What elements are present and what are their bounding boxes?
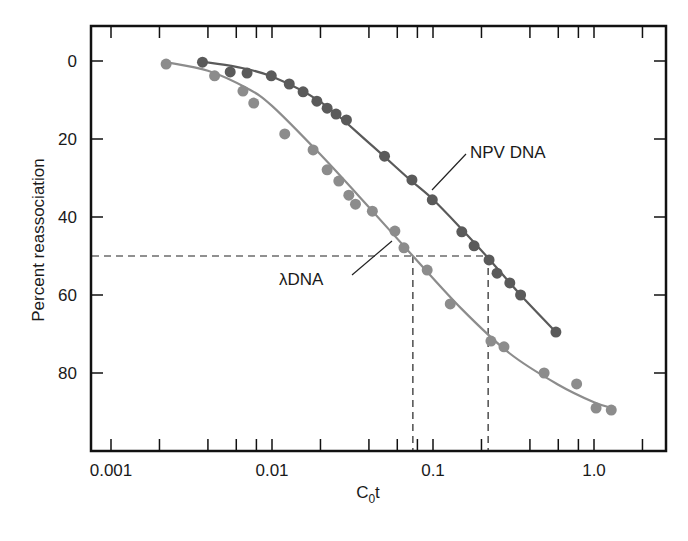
- lambda-dna-point: [398, 242, 409, 253]
- lambda-dna-point: [606, 405, 617, 416]
- npv-dna-point: [492, 268, 503, 279]
- npv-dna-point: [225, 66, 236, 77]
- npv-dna-point: [298, 86, 309, 97]
- lambda-dna-point: [161, 59, 172, 70]
- lambda-dna-point: [308, 144, 319, 155]
- x-axis-title: C0t: [356, 483, 380, 506]
- npv-dna-point: [341, 114, 352, 125]
- y-axis-title: Percent reassociation: [29, 158, 48, 321]
- lambda-label-leader: [352, 241, 392, 275]
- npv-dna-point: [311, 96, 322, 107]
- lambda-dna-point: [279, 128, 290, 139]
- lambda-dna-point: [389, 226, 400, 237]
- npv-dna-point: [406, 174, 417, 185]
- npv-dna-point: [427, 194, 438, 205]
- y-tick-label: 0: [68, 52, 77, 71]
- npv-dna-point: [242, 68, 253, 79]
- npv-dna-point: [469, 240, 480, 251]
- reassociation-chart: 0.0010.010.11.0 020406080 Percent reasso…: [0, 0, 688, 541]
- lambda-dna-point: [485, 336, 496, 347]
- y-tick-label: 80: [58, 364, 77, 383]
- y-tick-label: 40: [58, 208, 77, 227]
- data-points: [161, 57, 617, 416]
- lambda-dna-point: [571, 378, 582, 389]
- npv-dna-point: [456, 226, 467, 237]
- y-axis-tick-labels: 020406080: [58, 52, 77, 383]
- npv-dna-label: NPV DNA: [470, 143, 546, 162]
- lambda-dna-point: [591, 403, 602, 414]
- x-axis-title-base: C: [356, 483, 368, 502]
- lambda-dna-point: [333, 176, 344, 187]
- x-tick-label: 1.0: [582, 461, 606, 480]
- y-tick-label: 20: [58, 130, 77, 149]
- npv-dna-point: [331, 109, 342, 120]
- lambda-dna-point: [209, 70, 220, 81]
- lambda-dna-point: [248, 98, 259, 109]
- y-tick-label: 60: [58, 286, 77, 305]
- npv-dna-point: [484, 254, 495, 265]
- lambda-dna-point: [445, 298, 456, 309]
- npv-dna-point: [197, 57, 208, 68]
- lambda-dna-point: [367, 206, 378, 217]
- x-tick-label: 0.01: [255, 461, 288, 480]
- npv-dna-point: [515, 290, 526, 301]
- lambda-dna-point: [322, 164, 333, 175]
- lambda-dna-point: [539, 368, 550, 379]
- npv-dna-point: [379, 151, 390, 162]
- x-axis-title-suffix: t: [375, 483, 380, 502]
- lambda-dna-curve: [166, 62, 612, 408]
- lambda-dna-point: [350, 199, 361, 210]
- lambda-dna-point: [422, 265, 433, 276]
- npv-dna-point: [504, 277, 515, 288]
- lambda-dna-point: [498, 341, 509, 352]
- lambda-dna-point: [343, 190, 354, 201]
- fitted-curves: [166, 62, 612, 408]
- x-tick-label: 0.001: [90, 461, 133, 480]
- npv-dna-point: [284, 79, 295, 90]
- x-tick-label: 0.1: [421, 461, 445, 480]
- npv-dna-point: [550, 327, 561, 338]
- x-axis-tick-labels: 0.0010.010.11.0: [90, 461, 606, 480]
- lambda-dna-point: [237, 86, 248, 97]
- npv-label-leader: [432, 154, 466, 190]
- npv-dna-point: [266, 70, 277, 81]
- lambda-dna-label: λDNA: [279, 270, 324, 289]
